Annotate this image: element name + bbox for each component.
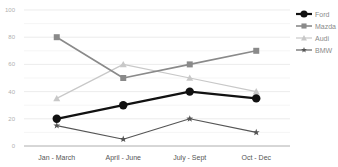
y-tick-label: 80 — [8, 34, 15, 40]
square-marker-icon — [54, 34, 60, 40]
square-marker-icon — [120, 75, 126, 81]
triangle-marker-icon — [53, 95, 60, 101]
legend-item-mazda: Mazda — [296, 23, 336, 30]
legend: FordMazdaAudiBMW — [296, 10, 336, 53]
x-axis-categories: Jan - MarchApril - JuneJuly - SeptOct - … — [38, 154, 271, 162]
circle-marker-icon — [300, 10, 307, 17]
star-marker-icon — [120, 136, 127, 143]
star-marker-icon — [253, 129, 260, 136]
star-marker-icon — [301, 47, 307, 53]
series-line — [57, 37, 257, 78]
y-tick-label: 0 — [12, 143, 16, 149]
legend-label: BMW — [315, 47, 333, 54]
legend-label: Ford — [315, 11, 330, 18]
square-marker-icon — [253, 48, 259, 54]
line-chart: 020406080100 Jan - MarchApril - JuneJuly… — [0, 0, 338, 167]
star-marker-icon — [186, 115, 193, 122]
series-bmw — [53, 115, 259, 142]
y-tick-label: 40 — [8, 89, 15, 95]
legend-label: Audi — [315, 35, 329, 42]
x-category-label: Jan - March — [38, 154, 75, 161]
square-marker-icon — [301, 23, 306, 28]
square-marker-icon — [187, 61, 193, 67]
circle-marker-icon — [186, 87, 194, 95]
y-tick-label: 100 — [5, 7, 16, 13]
legend-item-bmw: BMW — [296, 47, 333, 54]
circle-marker-icon — [252, 94, 260, 102]
circle-marker-icon — [119, 101, 127, 109]
series-line — [57, 64, 257, 98]
y-tick-label: 20 — [8, 116, 15, 122]
x-category-label: Oct - Dec — [241, 154, 271, 161]
series-lines — [53, 34, 261, 142]
y-axis-ticks: 020406080100 — [5, 7, 16, 149]
series-mazda — [54, 34, 260, 81]
series-line — [57, 119, 257, 139]
y-tick-label: 60 — [8, 61, 15, 67]
legend-label: Mazda — [315, 23, 336, 30]
x-category-label: July - Sept — [173, 154, 206, 162]
x-category-label: April - June — [106, 154, 142, 162]
legend-item-ford: Ford — [296, 10, 330, 17]
legend-item-audi: Audi — [296, 35, 329, 42]
circle-marker-icon — [53, 115, 61, 123]
